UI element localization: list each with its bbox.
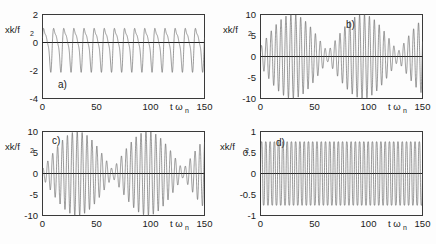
chart-panel-b: 10 5 0 -5 -10 0 50 100 150 xk/f 2 t ω n … xyxy=(218,0,436,122)
plot-a-ytick-2: -2 xyxy=(30,65,38,76)
plot-d-xlabel: t ω n xyxy=(388,218,407,231)
plot-b-ylabel-sub: 2 xyxy=(248,30,252,37)
plot-a-ylabel-text: xk/f xyxy=(5,24,20,35)
plot-a-curve-group xyxy=(43,28,205,72)
plot-d-svg: 1 0.5 0 -0.5 -1 0 50 100 150 xk/f 2 t ω … xyxy=(218,122,436,244)
plot-b-ylabel-text: xk/f xyxy=(223,24,238,35)
plot-b-ytick-0: 10 xyxy=(245,9,256,20)
plot-c-xtick-3: 150 xyxy=(197,218,213,229)
plot-d-ylabel-text: xk/f xyxy=(220,141,235,152)
plot-a-xtick-1: 50 xyxy=(91,101,102,112)
chart-panel-a: 2 0 -2 -4 0 50 100 150 xk/f 2 t ω n a) xyxy=(0,0,218,122)
plot-b-xtick-2: 100 xyxy=(361,101,377,112)
plot-a-xtick-0: 0 xyxy=(40,101,45,112)
plot-d-ticklabels-y: 1 0.5 0 -0.5 -1 xyxy=(240,126,256,221)
plot-d-xtick-2: 100 xyxy=(361,218,377,229)
chart-panel-c: 10 5 0 -5 -10 0 50 100 150 xk/f 2 t ω n … xyxy=(0,122,218,244)
plot-d-ylabel-sub: 2 xyxy=(245,147,249,154)
plot-c-ticklabels-y: 10 5 0 -5 -10 xyxy=(24,126,38,221)
plot-c-ytick-0: 10 xyxy=(27,126,38,137)
plot-a-panel-letter: a) xyxy=(58,79,67,90)
plot-b-xtick-3: 150 xyxy=(415,101,431,112)
plot-c-ytick-2: 0 xyxy=(33,168,38,179)
plot-a-xtick-2: 100 xyxy=(143,101,159,112)
plot-b-xlabel-text: t ω xyxy=(388,101,401,112)
plot-a-ylabel: xk/f 2 xyxy=(5,24,34,37)
plot-b-xtick-0: 0 xyxy=(258,101,263,112)
plot-d-xlabel-text: t ω xyxy=(388,218,401,229)
plot-a-xlabel-text: t ω xyxy=(170,101,183,112)
plot-c-ylabel: xk/f 2 xyxy=(5,141,34,154)
figure-canvas: 2 0 -2 -4 0 50 100 150 xk/f 2 t ω n a) xyxy=(0,0,436,244)
plot-d-ytick-3: -0.5 xyxy=(240,189,256,200)
plot-c-xlabel-text: t ω xyxy=(170,218,183,229)
plot-c-svg: 10 5 0 -5 -10 0 50 100 150 xk/f 2 t ω n … xyxy=(0,122,218,244)
plot-c-xtick-0: 0 xyxy=(40,218,45,229)
plot-b-ticklabels-y: 10 5 0 -5 -10 xyxy=(242,9,256,104)
chart-panel-d: 1 0.5 0 -0.5 -1 0 50 100 150 xk/f 2 t ω … xyxy=(218,122,436,244)
plot-d-xtick-3: 150 xyxy=(415,218,431,229)
plot-d-ytick-4: -1 xyxy=(248,210,256,221)
plot-d-xtick-1: 50 xyxy=(309,218,320,229)
plot-c-xlabel: t ω n xyxy=(170,218,189,231)
plot-a-ytick-0: 2 xyxy=(33,9,38,20)
plot-b-ytick-3: -5 xyxy=(248,72,256,83)
plot-c-xtick-1: 50 xyxy=(91,218,102,229)
plot-b-xtick-1: 50 xyxy=(309,101,320,112)
plot-a-xlabel-sub: n xyxy=(185,107,189,114)
plot-c-ytick-3: -5 xyxy=(30,189,38,200)
plot-a-ylabel-sub: 2 xyxy=(30,30,34,37)
plot-d-xtick-0: 0 xyxy=(258,218,263,229)
plot-a-xtick-3: 150 xyxy=(197,101,213,112)
plot-b-xlabel: t ω n xyxy=(388,101,407,114)
plot-c-ylabel-sub: 2 xyxy=(30,147,34,154)
plot-d-xlabel-sub: n xyxy=(403,224,407,231)
plot-a-curve xyxy=(43,28,205,72)
plot-a-ytick-1: 0 xyxy=(33,37,38,48)
plot-c-ytick-4: -10 xyxy=(24,210,38,221)
plot-c-ylabel-text: xk/f xyxy=(5,141,20,152)
plot-a-svg: 2 0 -2 -4 0 50 100 150 xk/f 2 t ω n a) xyxy=(0,0,218,122)
plot-a-xlabel: t ω n xyxy=(170,101,189,114)
plot-c-xlabel-sub: n xyxy=(185,224,189,231)
plot-b-ylabel: xk/f 2 xyxy=(223,24,252,37)
plot-c-xtick-2: 100 xyxy=(143,218,159,229)
plot-d-ytick-2: 0 xyxy=(251,168,256,179)
plot-a-ticklabels-y: 2 0 -2 -4 xyxy=(30,9,38,104)
plot-b-svg: 10 5 0 -5 -10 0 50 100 150 xk/f 2 t ω n … xyxy=(218,0,436,122)
plot-b-ytick-2: 0 xyxy=(251,51,256,62)
plot-a-ytick-3: -4 xyxy=(30,93,38,104)
plot-c-panel-letter: c) xyxy=(52,135,60,146)
plot-b-xlabel-sub: n xyxy=(403,107,407,114)
plot-b-ytick-4: -10 xyxy=(242,93,256,104)
plot-d-ylabel: xk/f 2 xyxy=(220,141,249,154)
plot-d-ytick-0: 1 xyxy=(251,126,256,137)
